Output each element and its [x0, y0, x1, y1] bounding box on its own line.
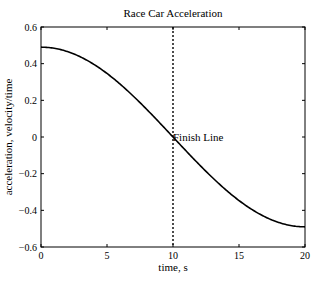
chart-title: Race Car Acceleration: [124, 7, 223, 19]
x-axis-label: time, s: [158, 261, 187, 273]
y-tick-label: 0.4: [25, 58, 38, 69]
plot-area: 051015200.60.40.20−0.2−0.4−0.6Finish Lin…: [19, 22, 310, 262]
x-tick-label: 0: [39, 250, 44, 261]
finish-line-label: Finish Line: [173, 131, 224, 143]
x-tick-label: 5: [105, 250, 110, 261]
y-tick-label: 0: [32, 132, 37, 143]
y-tick-label: 0.2: [25, 95, 38, 106]
y-axis-label: acceleration, velocity/time: [2, 79, 14, 196]
x-tick-label: 15: [234, 250, 244, 261]
y-tick-label: 0.6: [25, 22, 38, 33]
line-chart: Race Car Acceleration 051015200.60.40.20…: [0, 0, 319, 284]
y-tick-label: −0.2: [19, 168, 37, 179]
y-tick-label: −0.6: [19, 242, 37, 253]
x-tick-label: 20: [300, 250, 310, 261]
x-tick-label: 10: [168, 250, 178, 261]
y-tick-label: −0.4: [19, 205, 37, 216]
